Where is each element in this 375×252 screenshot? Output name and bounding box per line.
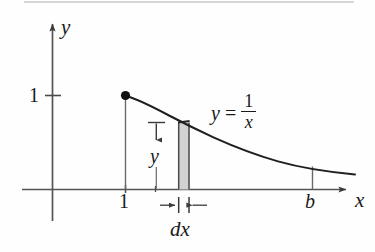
figure-area-under-reciprocal-curve: y x 1 1 b y dx y = 1 x	[0, 0, 375, 252]
strip-width-label: dx	[170, 219, 190, 240]
strip-fill	[178, 123, 189, 190]
differential-strip	[178, 121, 190, 190]
equation-fraction: 1 x	[241, 92, 256, 131]
fraction-denominator: x	[242, 112, 256, 131]
strip-height-label: y	[150, 146, 159, 166]
x-tick-label-b: b	[305, 191, 315, 211]
x-axis-label: x	[355, 190, 364, 211]
figure-canvas	[0, 0, 375, 252]
fraction-numerator: 1	[241, 92, 256, 111]
curve-start-point-dot	[121, 91, 130, 100]
x-tick-label-one: 1	[119, 191, 129, 211]
tick-group	[45, 96, 156, 194]
width-measure-group	[160, 197, 207, 213]
y-axis-label: y	[61, 17, 70, 38]
equation-left-side: y	[211, 103, 220, 123]
y-tick-label-one: 1	[29, 85, 39, 105]
curve-equation-label: y = 1 x	[211, 93, 256, 132]
equation-equals-sign: =	[224, 103, 237, 123]
